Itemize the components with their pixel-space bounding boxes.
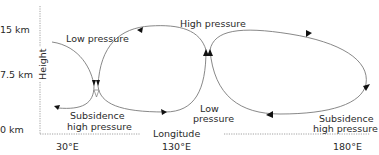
arrow-up-icon — [207, 49, 213, 56]
arrow-right-icon — [161, 109, 167, 115]
x-axis-label: Longitude — [153, 128, 200, 139]
flow-left-surface-out — [58, 86, 94, 108]
y-tick-0km: 0 km — [0, 124, 24, 135]
label-subsidence-left-2: high pressure — [67, 121, 132, 132]
label-low-pressure-surface-2: pressure — [193, 113, 234, 124]
x-tick-130e: 130°E — [162, 141, 191, 152]
label-low-pressure-upper: Low pressure — [66, 33, 129, 44]
y-axis-label: Height — [37, 48, 48, 80]
y-axis: 15 km 7.5 km 0 km Height — [0, 6, 48, 135]
arrow-right-icon — [306, 30, 312, 37]
arrow-down-icon — [96, 80, 100, 86]
label-subsidence-right-2: high pressure — [313, 123, 378, 134]
x-tick-180e: 180°E — [333, 141, 362, 152]
arrow-left-icon — [54, 105, 60, 110]
flow-loop-west-surface — [98, 50, 206, 112]
y-tick-15km: 15 km — [0, 24, 30, 35]
walker-circulation-diagram: 15 km 7.5 km 0 km Height Longitude 30°E … — [0, 0, 379, 155]
label-subsidence-left-1: Subsidence — [70, 110, 125, 121]
subsidence-arrow-icon — [94, 90, 99, 97]
arrow-down-icon — [92, 80, 96, 86]
y-tick-7-5km: 7.5 km — [0, 69, 33, 80]
label-high-pressure-upper: High pressure — [180, 18, 246, 29]
flow-left-descend-outer — [52, 42, 94, 86]
x-tick-30e: 30°E — [56, 141, 79, 152]
flow-loop-east-upper — [210, 30, 366, 84]
flow-loop-east-surface — [210, 50, 366, 114]
arrow-left-icon — [266, 111, 273, 118]
